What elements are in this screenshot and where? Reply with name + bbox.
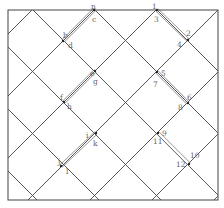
point-label: j [57, 157, 60, 166]
diagonal-line-up [0, 0, 224, 84]
point-label: 3 [154, 15, 159, 24]
point-label: 10 [190, 151, 200, 160]
diagonal-line-down [0, 59, 224, 208]
point-label: 6 [187, 93, 192, 102]
highlighted-paths [60, 9, 190, 167]
point-label: d [68, 41, 73, 50]
point-label: 8 [178, 103, 183, 112]
point-label: k [93, 139, 98, 148]
point-label: l [66, 167, 69, 176]
diagonal-line-up [0, 84, 224, 208]
diagonal-line-down [0, 0, 224, 121]
point-label: c [92, 15, 96, 24]
point-label: 1 [152, 2, 157, 11]
point-label: h [67, 102, 72, 111]
intersection-point [95, 132, 97, 134]
intersection-point [157, 132, 159, 134]
diagonal-line-up [0, 22, 224, 208]
bounding-box [8, 10, 218, 200]
intersection-point [187, 102, 189, 104]
intersection-point [156, 71, 158, 73]
point-label: 12 [176, 160, 186, 169]
intersection-point [63, 101, 65, 103]
intersection-point [187, 39, 189, 41]
point-label: 2 [186, 29, 191, 38]
reflection-diagram: ncbdegfhikjl132457689111012 [0, 0, 224, 208]
point-label: 7 [153, 80, 158, 89]
point-label: i [86, 131, 89, 140]
point-label: 5 [161, 69, 166, 78]
point-label: 9 [162, 129, 167, 138]
point-label: 4 [177, 40, 182, 49]
point-label: 11 [153, 137, 163, 146]
point-label: b [63, 31, 68, 40]
intersection-point [188, 163, 190, 165]
point-label: g [93, 77, 98, 86]
intersection-point [62, 40, 64, 42]
point-label: n [91, 2, 96, 11]
